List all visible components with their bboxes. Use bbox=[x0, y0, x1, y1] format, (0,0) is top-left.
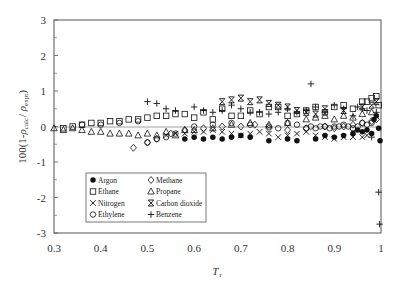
legend-label: Methane bbox=[156, 176, 183, 185]
legend-item-carbon-dioxide: Carbon dioxide bbox=[148, 199, 203, 208]
x-tick-label: 0.4 bbox=[94, 242, 108, 254]
legend-label: Ethylene bbox=[98, 210, 125, 219]
legend: ArgonMethaneEthanePropaneNitrogenCarbon … bbox=[86, 173, 206, 222]
legend-label: Carbon dioxide bbox=[156, 199, 203, 208]
y-tick-label: -1 bbox=[37, 156, 46, 168]
y-tick-label: 2 bbox=[41, 50, 47, 62]
legend-label: Nitrogen bbox=[98, 199, 125, 208]
y-tick-label: -3 bbox=[37, 227, 47, 239]
legend-label: Benzene bbox=[156, 210, 182, 219]
x-tick-label: 1 bbox=[378, 242, 384, 254]
legend-label: Argon bbox=[98, 176, 117, 185]
y-axis-label: 100(1-ρcalc / ρexpt) bbox=[16, 90, 30, 164]
x-tick-label: 0.5 bbox=[141, 242, 155, 254]
x-axis-label: Tr bbox=[212, 265, 222, 279]
y-tick-label: -2 bbox=[37, 192, 46, 204]
scatter-chart: 3210-1-2-3 0.30.40.50.60.70.80.91 100(1-… bbox=[0, 0, 402, 290]
x-tick-label: 0.7 bbox=[234, 242, 248, 254]
y-tick-label: 1 bbox=[41, 85, 47, 97]
legend-label: Propane bbox=[156, 187, 181, 196]
x-axis-ticks: 0.30.40.50.60.70.80.91 bbox=[47, 242, 384, 254]
x-tick-label: 0.9 bbox=[327, 242, 341, 254]
x-tick-label: 0.3 bbox=[47, 242, 61, 254]
y-tick-label: 0 bbox=[41, 121, 47, 133]
x-tick-label: 0.6 bbox=[187, 242, 201, 254]
y-tick-label: 3 bbox=[41, 14, 47, 26]
x-tick-label: 0.8 bbox=[281, 242, 295, 254]
legend-label: Ethane bbox=[98, 187, 119, 196]
